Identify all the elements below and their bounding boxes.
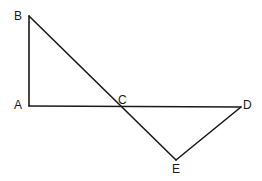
segment-be: [29, 16, 176, 160]
label-b: B: [14, 9, 22, 23]
label-d: D: [243, 98, 252, 112]
label-c: C: [118, 93, 127, 107]
geometry-diagram: B A C D E: [0, 0, 262, 181]
segment-de: [176, 107, 241, 160]
segment-ad: [29, 106, 241, 107]
label-a: A: [14, 98, 22, 112]
label-e: E: [172, 162, 180, 176]
